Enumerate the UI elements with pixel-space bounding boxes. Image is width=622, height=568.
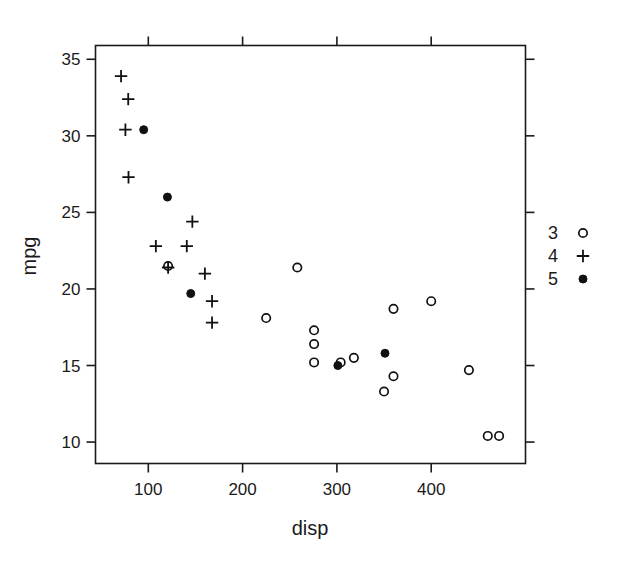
- y-tick-label: 10: [62, 433, 81, 452]
- y-tick-label: 15: [62, 357, 81, 376]
- x-tick-label: 300: [323, 480, 351, 499]
- data-point-filled-circle: [163, 193, 171, 201]
- x-axis-title: disp: [292, 517, 329, 539]
- legend-label-5: 5: [548, 269, 558, 289]
- data-point-filled-circle: [334, 362, 342, 370]
- y-tick-label: 20: [62, 280, 81, 299]
- legend-label-3: 3: [548, 223, 558, 243]
- x-tick-label: 400: [417, 480, 445, 499]
- legend-label-4: 4: [548, 246, 558, 266]
- figure-background: [0, 0, 622, 568]
- scatter-plot-figure: 353025201510 100200300400 345 mpg disp: [0, 0, 622, 568]
- data-point-filled-circle: [187, 290, 195, 298]
- x-tick-label: 200: [228, 480, 256, 499]
- data-point-filled-circle: [381, 349, 389, 357]
- plot-canvas: 353025201510 100200300400 345 mpg disp: [0, 0, 622, 568]
- y-tick-label: 30: [62, 127, 81, 146]
- y-axis-title: mpg: [18, 237, 40, 276]
- data-point-filled-circle: [140, 126, 148, 134]
- y-tick-label: 25: [62, 203, 81, 222]
- legend-marker-filled-circle: [579, 275, 587, 283]
- y-tick-label: 35: [62, 50, 81, 69]
- x-tick-label: 100: [134, 480, 162, 499]
